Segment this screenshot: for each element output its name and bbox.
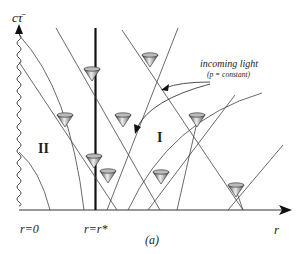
vertical-axis-label: cτ̄ <box>12 10 22 26</box>
incoming-light-title: incoming light <box>200 58 258 69</box>
region-label-two: II <box>38 141 49 157</box>
singularity-wavy-axis <box>17 34 21 206</box>
incoming-light-arrow-upper <box>165 82 210 88</box>
spacetime-diagram <box>0 0 304 254</box>
horizontal-axis-label: r <box>274 222 279 238</box>
tick-label-r-zero: r=0 <box>20 222 39 237</box>
arrowhead-icon <box>161 84 169 91</box>
incoming-light-subtitle: (p = constant) <box>207 70 250 79</box>
region-label-one: I <box>157 130 162 146</box>
tick-label-r-star: r=r* <box>84 222 107 237</box>
figure-caption: (a) <box>145 233 159 248</box>
